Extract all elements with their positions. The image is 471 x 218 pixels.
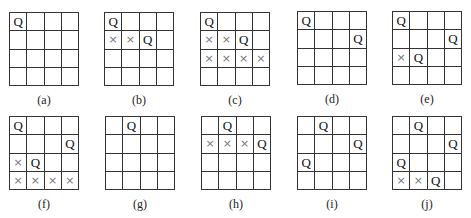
empty-cell xyxy=(140,50,157,68)
empty-cell xyxy=(140,68,157,86)
empty-cell xyxy=(315,12,332,30)
queen-cell: Q xyxy=(27,154,44,172)
blocked-cell: × xyxy=(393,49,410,67)
empty-cell xyxy=(218,68,235,86)
queen-cell: Q xyxy=(62,135,79,153)
empty-cell xyxy=(237,172,254,190)
empty-cell xyxy=(45,117,62,135)
blocked-cell: × xyxy=(202,135,219,153)
blocked-cell: × xyxy=(218,50,235,68)
empty-cell xyxy=(428,154,445,172)
queen-cell: Q xyxy=(445,30,462,48)
empty-cell xyxy=(157,13,174,31)
empty-cell xyxy=(158,117,175,135)
blocked-cell: × xyxy=(219,135,236,153)
chess-grid-4x4: Q xyxy=(9,12,79,86)
empty-cell xyxy=(410,12,427,30)
empty-cell xyxy=(333,12,350,30)
chess-grid-4x4: QQQ xyxy=(297,116,367,190)
blocked-cell: × xyxy=(253,50,270,68)
empty-cell xyxy=(428,49,445,67)
empty-cell xyxy=(445,12,462,30)
empty-cell xyxy=(157,31,174,49)
empty-cell xyxy=(333,172,350,190)
empty-cell xyxy=(445,154,462,172)
empty-cell xyxy=(122,50,139,68)
empty-cell xyxy=(315,135,332,153)
empty-cell xyxy=(445,117,462,135)
board-i: QQQ xyxy=(297,116,367,190)
empty-cell xyxy=(298,67,315,85)
empty-cell xyxy=(333,117,350,135)
empty-cell xyxy=(236,68,253,86)
empty-cell xyxy=(62,13,79,31)
empty-cell xyxy=(45,13,62,31)
empty-cell xyxy=(27,117,44,135)
empty-cell xyxy=(27,13,44,31)
empty-cell xyxy=(237,117,254,135)
empty-cell xyxy=(350,12,367,30)
chess-grid-4x4: QQ xyxy=(297,11,367,85)
queen-cell: Q xyxy=(410,49,427,67)
empty-cell xyxy=(123,135,140,153)
chess-grid-4x4: Q×××Q xyxy=(201,116,271,190)
board-caption: (f) xyxy=(9,197,79,212)
blocked-cell: × xyxy=(10,172,27,190)
empty-cell xyxy=(62,31,79,49)
empty-cell xyxy=(122,13,139,31)
empty-cell xyxy=(445,172,462,190)
blocked-cell: × xyxy=(105,31,122,49)
chess-grid-4x4: Q xyxy=(105,116,175,190)
board-j: QQQ××Q xyxy=(392,116,462,190)
empty-cell xyxy=(10,31,27,49)
empty-cell xyxy=(350,49,367,67)
empty-cell xyxy=(219,154,236,172)
queen-cell: Q xyxy=(350,135,367,153)
board-d: QQ xyxy=(297,11,367,85)
empty-cell xyxy=(62,154,79,172)
empty-cell xyxy=(428,12,445,30)
empty-cell xyxy=(123,154,140,172)
empty-cell xyxy=(105,50,122,68)
chess-grid-4x4: Q××Q×××× xyxy=(200,12,270,86)
board-f: QQ×Q×××× xyxy=(9,116,79,190)
empty-cell xyxy=(333,154,350,172)
empty-cell xyxy=(428,30,445,48)
queen-cell: Q xyxy=(140,31,157,49)
empty-cell xyxy=(10,68,27,86)
empty-cell xyxy=(393,135,410,153)
empty-cell xyxy=(106,154,123,172)
empty-cell xyxy=(428,117,445,135)
empty-cell xyxy=(237,154,254,172)
empty-cell xyxy=(45,135,62,153)
empty-cell xyxy=(410,67,427,85)
empty-cell xyxy=(254,117,271,135)
empty-cell xyxy=(393,30,410,48)
empty-cell xyxy=(236,13,253,31)
empty-cell xyxy=(141,154,158,172)
blocked-cell: × xyxy=(410,172,427,190)
board-a: Q xyxy=(9,12,79,86)
board-caption: (c) xyxy=(200,93,270,108)
queen-cell: Q xyxy=(236,31,253,49)
blocked-cell: × xyxy=(201,31,218,49)
board-caption: (g) xyxy=(105,197,175,212)
board-caption: (e) xyxy=(392,92,462,107)
board-caption: (h) xyxy=(201,197,271,212)
empty-cell xyxy=(445,49,462,67)
empty-cell xyxy=(10,50,27,68)
chess-grid-4x4: Q××Q xyxy=(104,12,174,86)
empty-cell xyxy=(253,68,270,86)
queen-cell: Q xyxy=(254,135,271,153)
empty-cell xyxy=(202,154,219,172)
empty-cell xyxy=(123,172,140,190)
empty-cell xyxy=(202,172,219,190)
chess-grid-4x4: QQQ××Q xyxy=(392,116,462,190)
board-caption: (a) xyxy=(9,93,79,108)
queen-cell: Q xyxy=(10,117,27,135)
empty-cell xyxy=(10,135,27,153)
board-caption: (i) xyxy=(297,197,367,212)
blocked-cell: × xyxy=(393,172,410,190)
chess-grid-4x4: QQ×Q xyxy=(392,11,462,85)
empty-cell xyxy=(333,49,350,67)
